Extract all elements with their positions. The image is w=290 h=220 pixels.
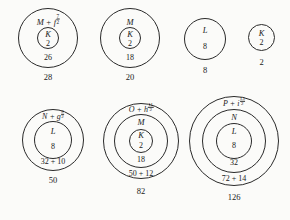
outer-shell-label: K <box>259 29 265 38</box>
inner-shell-label: K <box>138 131 144 140</box>
outer-shell-label: N + g92 <box>42 111 64 121</box>
inner-shell-label: L <box>51 127 56 136</box>
inner-shell-label: L <box>232 127 237 136</box>
shell-model-diagram: M + f72 K 2 26 28 M K 2 18 20 L 8 8 K 2 … <box>0 0 290 220</box>
magic-number: 82 <box>137 187 146 196</box>
outer-shell-label: O + h112 <box>129 104 154 114</box>
shell-group-28: M + f72 K 2 26 28 <box>18 8 78 68</box>
outer-shell-occupancy: 50 + 12 <box>129 170 154 178</box>
inner-shell-occupancy: 8 <box>51 143 55 151</box>
shell-group-82: O + h112 M K 2 18 50 + 12 82 <box>103 103 179 179</box>
outer-shell-occupancy: 2 <box>260 39 264 47</box>
outer-shell-label: M <box>126 18 133 27</box>
outer-shell-occupancy: 26 <box>44 54 52 62</box>
middle-shell-label: M <box>137 118 144 127</box>
inner-shell-occupancy: 2 <box>46 40 50 48</box>
shell-group-8: L 8 8 <box>184 18 226 60</box>
magic-number: 20 <box>126 73 135 82</box>
magic-number: 2 <box>259 58 263 67</box>
outer-shell-label: L <box>203 26 208 35</box>
shell-group-20: M K 2 18 20 <box>100 8 160 68</box>
shell-group-126: P + i132 N L 8 32 72 + 14 126 <box>189 96 279 186</box>
inner-shell-label: K <box>127 30 133 39</box>
inner-shell-occupancy: 2 <box>139 142 143 150</box>
outer-shell-label: M + f72 <box>37 16 60 27</box>
shell-group-50: N + g92 L 8 32 + 10 50 <box>22 109 84 171</box>
magic-number: 28 <box>44 73 53 82</box>
inner-shell-label: K <box>45 30 51 39</box>
outer-shell-occupancy: 18 <box>126 54 134 62</box>
middle-shell-occupancy: 32 <box>230 159 238 167</box>
middle-shell-occupancy: 18 <box>137 156 145 164</box>
magic-number: 50 <box>49 176 58 185</box>
outer-shell-occupancy: 72 + 14 <box>222 175 247 183</box>
outer-shell-occupancy: 8 <box>203 43 207 51</box>
inner-shell-occupancy: 8 <box>232 142 236 150</box>
middle-shell-label: N <box>231 113 237 122</box>
magic-number: 8 <box>203 66 207 75</box>
magic-number: 126 <box>228 193 241 202</box>
outer-shell-label: P + i132 <box>223 98 245 108</box>
inner-shell-occupancy: 2 <box>128 40 132 48</box>
outer-shell-occupancy: 32 + 10 <box>41 158 66 166</box>
shell-group-2: K 2 2 <box>248 24 275 51</box>
